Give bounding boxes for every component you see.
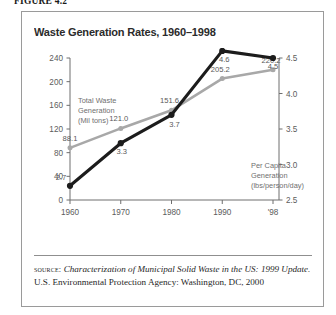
- data-label-per-capita: 4.5: [268, 62, 279, 71]
- data-label-per-capita: 3.7: [169, 120, 180, 129]
- series-marker-total-waste: [118, 126, 123, 131]
- data-label-per-capita: 3.3: [116, 147, 127, 156]
- series-marker-total-waste: [220, 76, 225, 81]
- right-axis-tick-label: 2.5: [286, 196, 298, 205]
- x-axis-tick-label: 1960: [61, 208, 80, 217]
- source-publication-title: Characterization of Municipal Solid Wast…: [64, 264, 311, 274]
- source-label: source:: [34, 265, 61, 274]
- data-label-per-capita: 4.6: [219, 55, 230, 64]
- left-axis-tick-label: 200: [49, 78, 63, 87]
- x-axis-tick-label: 1990: [213, 208, 232, 217]
- right-axis-tick-label: 4.5: [286, 54, 298, 63]
- annotation-total-waste: Total Waste Generation (Mil tons): [78, 96, 116, 127]
- annotation-per-capita: Per Capita Generation (lbs/person/day): [251, 161, 304, 192]
- left-axis-tick-label: 80: [54, 149, 64, 158]
- annotation-total-line1: Total Waste: [78, 96, 116, 106]
- source-divider: [34, 255, 312, 256]
- x-axis-tick-label: '98: [268, 208, 279, 217]
- series-marker-total-waste: [68, 145, 73, 150]
- data-label-total-waste: 88.1: [63, 134, 78, 143]
- annotation-percapita-line3: (lbs/person/day): [251, 181, 304, 191]
- figure-frame: Waste Generation Rates, 1960–1998 040801…: [21, 11, 324, 307]
- series-marker-per-capita: [270, 55, 276, 61]
- right-axis-tick-label: 4.0: [286, 90, 298, 99]
- left-axis-tick-label: 240: [49, 54, 63, 63]
- data-label-total-waste: 151.6: [160, 96, 179, 105]
- annotation-percapita-line2: Generation: [251, 171, 304, 181]
- left-axis-tick-label: 120: [49, 125, 63, 134]
- annotation-total-line3: (Mil tons): [78, 116, 116, 126]
- series-marker-per-capita: [219, 48, 225, 54]
- data-label-per-capita: 2.7: [56, 173, 67, 182]
- series-marker-per-capita: [118, 140, 124, 146]
- annotation-percapita-line1: Per Capita: [251, 161, 304, 171]
- right-axis-tick-label: 3.5: [286, 125, 298, 134]
- left-axis-tick-label: 0: [58, 196, 63, 205]
- source-note: source: Characterization of Municipal So…: [34, 263, 314, 289]
- x-axis-tick-label: 1970: [112, 208, 131, 217]
- left-axis-tick-label: 160: [49, 101, 63, 110]
- chart-svg: 040801201602002402.53.03.54.04.519601970…: [22, 48, 323, 234]
- source-publisher: U.S. Environmental Protection Agency: Wa…: [34, 277, 264, 287]
- figure-number-label: FIGURE 4.2: [14, 0, 67, 7]
- x-axis-tick-label: 1980: [162, 208, 181, 217]
- chart-plot-area: 040801201602002402.53.03.54.04.519601970…: [22, 48, 323, 234]
- chart-title: Waste Generation Rates, 1960–1998: [34, 26, 216, 38]
- series-marker-per-capita: [168, 112, 174, 118]
- series-marker-per-capita: [67, 183, 73, 189]
- annotation-total-line2: Generation: [78, 106, 116, 116]
- figure-page: FIGURE 4.2 Waste Generation Rates, 1960–…: [0, 0, 336, 315]
- data-label-total-waste: 205.2: [211, 65, 230, 74]
